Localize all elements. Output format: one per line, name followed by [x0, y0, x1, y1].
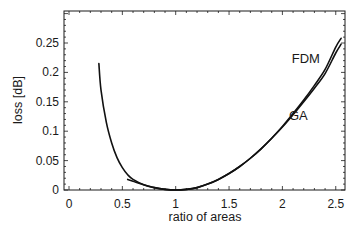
- loss-vs-area-ratio-chart: 00.511.522.5 00.050.10.150.20.25 FDMGA r…: [0, 0, 363, 238]
- series-line-ga: [128, 44, 341, 190]
- x-tick-label: 1.5: [221, 197, 238, 211]
- y-tick-label: 0.25: [36, 36, 60, 50]
- x-tick-label: 0: [66, 197, 73, 211]
- y-tick-label: 0.05: [36, 154, 60, 168]
- y-tick-label: 0: [52, 183, 59, 197]
- y-axis-label: loss [dB]: [11, 76, 25, 124]
- y-tick-label: 0.15: [36, 95, 60, 109]
- y-tick-label: 0.1: [42, 124, 59, 138]
- x-tick-label: 2: [279, 197, 286, 211]
- series-label-fdm: FDM: [292, 51, 320, 66]
- x-tick-label: 2.5: [327, 197, 344, 211]
- series-label-ga: GA: [289, 108, 308, 123]
- x-axis-label: ratio of areas: [169, 210, 242, 224]
- x-tick-label: 1: [172, 197, 179, 211]
- x-tick-label: 0.5: [114, 197, 131, 211]
- y-tick-label: 0.2: [42, 65, 59, 79]
- y-axis-ticks: 00.050.10.150.20.25: [36, 14, 345, 197]
